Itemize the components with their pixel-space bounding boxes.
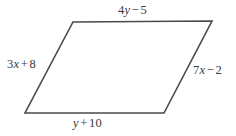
left-constant: 8 <box>29 57 35 71</box>
top-constant: 5 <box>140 3 146 17</box>
bottom-operator: + <box>79 116 89 130</box>
bottom-variable: y <box>73 116 79 130</box>
parallelogram-figure: 4y−5 3x+8 7x−2 y+10 <box>0 0 236 136</box>
side-label-bottom: y+10 <box>73 117 102 130</box>
bottom-constant: 10 <box>89 116 102 130</box>
side-label-right: 7x−2 <box>193 64 222 77</box>
right-constant: 2 <box>215 63 221 77</box>
top-operator: − <box>130 3 140 17</box>
side-label-left: 3x+8 <box>7 58 36 71</box>
right-operator: − <box>205 63 215 77</box>
parallelogram-outline <box>25 21 212 113</box>
side-label-top: 4y−5 <box>118 4 147 17</box>
left-operator: + <box>19 57 29 71</box>
